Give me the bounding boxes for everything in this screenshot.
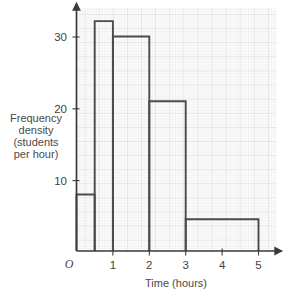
- chart-canvas: 10 20 30 1 2 3 4 5 O Time (hours) Freque…: [0, 0, 286, 294]
- y-tick-label-30: 30: [54, 31, 67, 43]
- y-axis-label-line-2: density: [19, 124, 54, 136]
- y-tick-label-10: 10: [54, 175, 67, 187]
- origin-label: O: [65, 257, 74, 271]
- x-tick-label-2: 2: [146, 259, 152, 271]
- x-tick-label-4: 4: [219, 259, 226, 271]
- grid-lines: [77, 8, 277, 251]
- histogram-figure: 10 20 30 1 2 3 4 5 O Time (hours) Freque…: [0, 0, 286, 294]
- y-axis-label-line-1: Frequency: [10, 112, 62, 124]
- x-axis-label: Time (hours): [145, 277, 207, 289]
- y-axis-label-line-3: (students: [13, 136, 59, 148]
- y-axis-label: Frequency density (students per hour): [10, 112, 62, 160]
- x-tick-label-5: 5: [255, 259, 261, 271]
- x-tick-label-1: 1: [110, 259, 116, 271]
- y-axis-label-line-4: per hour): [14, 148, 59, 160]
- x-tick-label-3: 3: [182, 259, 188, 271]
